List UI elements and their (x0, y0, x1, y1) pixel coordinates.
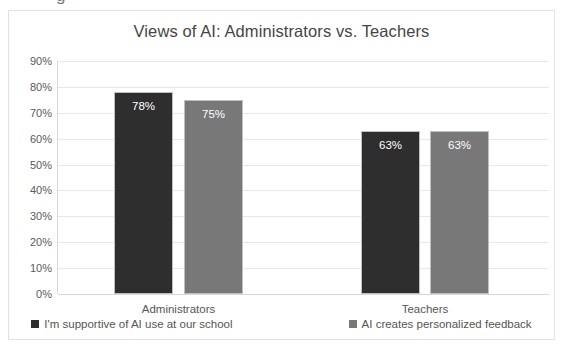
bar-value-label: 75% (185, 108, 242, 120)
legend-label: AI creates personalized feedback (362, 318, 532, 330)
bar-value-label: 63% (431, 139, 488, 151)
y-tick-label-80: 80% (12, 81, 52, 93)
x-category-label-administrators: Administrators (142, 303, 216, 315)
legend-item-feedback[interactable]: AI creates personalized feedback (349, 318, 532, 330)
y-tick-label-50: 50% (12, 159, 52, 171)
y-tick-label-90: 90% (12, 55, 52, 67)
chart-legend: I'm supportive of AI use at our school A… (9, 318, 554, 330)
legend-item-supportive[interactable]: I'm supportive of AI use at our school (31, 318, 232, 330)
chart-container: Views of AI: Administrators vs. Teachers… (8, 10, 555, 340)
bar-value-label: 63% (362, 139, 419, 151)
bar-value-label: 78% (115, 100, 172, 112)
gridline-0 (58, 294, 549, 295)
y-axis-line (57, 61, 58, 294)
cut-off-glyph: g (56, 0, 65, 4)
y-tick-label-10: 10% (12, 262, 52, 274)
gridline-90 (58, 61, 549, 62)
gridline-80 (58, 87, 549, 88)
y-tick-label-20: 20% (12, 236, 52, 248)
y-tick-label-30: 30% (12, 210, 52, 222)
bar-administrators-feedback[interactable]: 75% (184, 100, 243, 294)
legend-label: I'm supportive of AI use at our school (44, 318, 232, 330)
x-category-label-teachers: Teachers (402, 303, 449, 315)
bar-administrators-supportive[interactable]: 78% (114, 92, 173, 294)
y-tick-label-60: 60% (12, 133, 52, 145)
y-tick-label-70: 70% (12, 107, 52, 119)
legend-swatch-icon (31, 320, 39, 328)
bar-teachers-supportive[interactable]: 63% (361, 131, 420, 294)
plot-area: 90% 80% 70% 60% 50% 40% 30% 20% 10% 0% 7… (58, 61, 549, 294)
bar-teachers-feedback[interactable]: 63% (430, 131, 489, 294)
legend-swatch-icon (349, 320, 357, 328)
y-tick-label-0: 0% (12, 288, 52, 300)
chart-title: Views of AI: Administrators vs. Teachers (9, 22, 554, 41)
y-tick-label-40: 40% (12, 184, 52, 196)
